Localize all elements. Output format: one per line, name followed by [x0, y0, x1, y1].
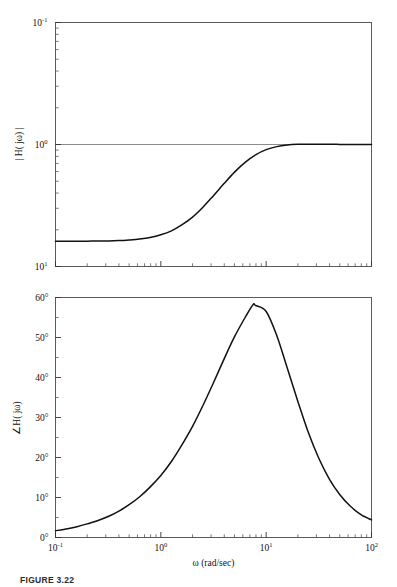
phase-y-tick-label: 40°	[35, 373, 49, 383]
magnitude-y-tick-label: 100	[35, 138, 48, 150]
phase-x-tick-exponent: 0	[164, 541, 167, 548]
phase-y-axis-title: ∠H( jω)	[12, 401, 23, 434]
magnitude-y-tick-exponent: 1	[44, 260, 47, 267]
phase-y-tick-label: 20°	[35, 453, 49, 463]
phase-x-tick-exponent: 2	[375, 541, 378, 548]
phase-y-tick-label: 60°	[35, 293, 49, 303]
bode-figure: 10-11001010°10°20°30°40°50°60°10-1100101…	[0, 0, 397, 587]
magnitude-y-tick-exponent: 0	[44, 138, 47, 145]
phase-x-tick-label: 10-1	[48, 541, 63, 553]
phase-x-tick-exponent: 1	[269, 541, 272, 548]
phase-y-tick-label: 30°	[35, 413, 49, 423]
phase-y-tick-label: 10°	[35, 493, 49, 503]
magnitude-y-tick-exponent: -1	[42, 16, 47, 23]
phase-curve	[56, 304, 372, 531]
magnitude-y-tick-label: 10-1	[33, 16, 48, 28]
phase-y-tick-label: 50°	[35, 333, 49, 343]
phase-x-tick-label: 101	[260, 541, 273, 553]
phase-x-tick-label: 102	[365, 541, 378, 553]
phase-y-tick-label: 0°	[40, 533, 49, 543]
magnitude-y-tick-label: 101	[35, 260, 48, 272]
magnitude-curve	[56, 144, 372, 241]
bode-plot-canvas: 10-11001010°10°20°30°40°50°60°10-1100101…	[0, 0, 397, 587]
phase-x-tick-exponent: -1	[58, 541, 63, 548]
x-axis-title: ω (rad/sec)	[193, 558, 235, 569]
magnitude-y-axis-title: | H( jω) |	[14, 127, 25, 160]
figure-caption: FIGURE 3.22	[20, 575, 74, 587]
phase-x-tick-label: 100	[154, 541, 167, 553]
phase-plot-frame	[56, 298, 372, 538]
